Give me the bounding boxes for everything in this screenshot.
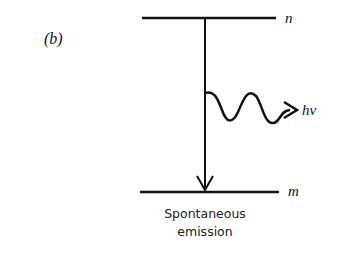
panel-label: (b) (44, 30, 63, 48)
photon-energy-label: hν (302, 102, 317, 118)
caption-line-1: Spontaneous (164, 206, 246, 221)
lower-level-label: m (288, 183, 299, 199)
energy-level-diagram: (b) n hν m Spontaneous emission (0, 0, 340, 254)
caption-line-2: emission (177, 224, 232, 239)
upper-level-label: n (285, 10, 293, 26)
photon-wave-icon (205, 92, 290, 123)
